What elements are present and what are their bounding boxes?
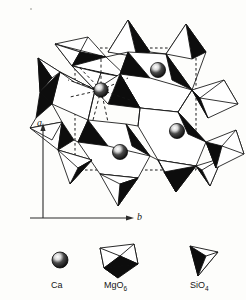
sio4-tetrahedron-top-center bbox=[108, 20, 150, 57]
polyhedra-network bbox=[30, 20, 244, 206]
legend-label-mgo6: MgO6 bbox=[104, 280, 127, 292]
mgo6-octahedron-right-edge-upper bbox=[192, 80, 238, 118]
scan-speck bbox=[30, 8, 32, 10]
legend-label-sio4-text: SiO bbox=[190, 280, 205, 290]
legend-label-mgo6-text: MgO bbox=[104, 280, 124, 290]
legend-label-ca: Ca bbox=[51, 280, 63, 290]
axis-b-arrow bbox=[126, 215, 134, 220]
ca-atom-coordinated bbox=[94, 83, 108, 97]
legend-label-sio4: SiO4 bbox=[190, 280, 209, 292]
ca-atom-lower-left bbox=[112, 144, 127, 159]
tetrahedron-icon bbox=[190, 246, 218, 276]
crystal-structure-diagram bbox=[0, 0, 246, 300]
figure-root: a b Ca MgO6 SiO4 bbox=[0, 0, 246, 300]
legend-label-mgo6-sub: 6 bbox=[124, 285, 128, 292]
legend-glyphs bbox=[52, 244, 218, 278]
sio4-tetrahedron-bottom-center bbox=[100, 174, 138, 206]
sio4-tetrahedron-top-right bbox=[166, 24, 206, 59]
sphere-icon bbox=[52, 252, 68, 268]
octahedron-icon bbox=[100, 244, 138, 278]
sio4-tetrahedron-bottom-right bbox=[158, 160, 196, 192]
legend-label-sio4-sub: 4 bbox=[205, 285, 209, 292]
axis-label-b: b bbox=[137, 211, 142, 222]
ca-atom-right bbox=[169, 123, 184, 138]
ca-atom-upper-right bbox=[150, 62, 165, 77]
legend-label-ca-text: Ca bbox=[51, 280, 63, 290]
axis-label-a: a bbox=[37, 117, 42, 128]
